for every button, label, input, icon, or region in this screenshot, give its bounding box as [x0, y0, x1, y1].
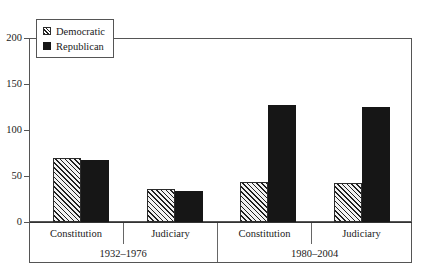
- solid-swatch-icon: [43, 42, 51, 50]
- label-band-bottom-border: [29, 262, 412, 263]
- bar-chart: 200 150 100 50 0 Democratic Republican C: [0, 0, 428, 274]
- y-axis-label-100: 100: [0, 124, 22, 135]
- y-axis-label-150: 150: [0, 78, 22, 89]
- bar-republican-1: [175, 191, 203, 222]
- bar-democratic-2: [240, 182, 268, 222]
- legend: Democratic Republican: [36, 19, 114, 58]
- category-label-0: Constitution: [29, 223, 123, 244]
- bar-republican-3: [362, 107, 390, 222]
- period-label-0: 1932–1976: [29, 244, 217, 262]
- period-label-1: 1980–2004: [218, 244, 411, 262]
- hatch-swatch-icon: [43, 27, 51, 35]
- legend-label-democratic: Democratic: [56, 26, 105, 37]
- bar-republican-2: [268, 105, 296, 222]
- bar-democratic-3: [334, 183, 362, 222]
- category-label-1: Judiciary: [124, 223, 217, 244]
- bars-layer: [29, 38, 412, 222]
- legend-label-republican: Republican: [56, 41, 104, 52]
- bar-republican-0: [81, 160, 109, 222]
- bar-democratic-1: [147, 189, 175, 222]
- period-label-band: 1932–1976 1980–2004: [29, 244, 412, 262]
- category-label-band: Constitution Judiciary Constitution Judi…: [29, 223, 412, 244]
- category-label-3: Judiciary: [312, 223, 411, 244]
- legend-item-democratic: Democratic: [43, 24, 105, 38]
- y-axis-label-0: 0: [0, 216, 22, 227]
- label-band-right-border: [411, 223, 412, 262]
- y-axis-label-200: 200: [0, 32, 22, 43]
- legend-item-republican: Republican: [43, 39, 105, 53]
- category-label-2: Constitution: [218, 223, 311, 244]
- y-axis-label-50: 50: [0, 170, 22, 181]
- bar-democratic-0: [53, 158, 81, 222]
